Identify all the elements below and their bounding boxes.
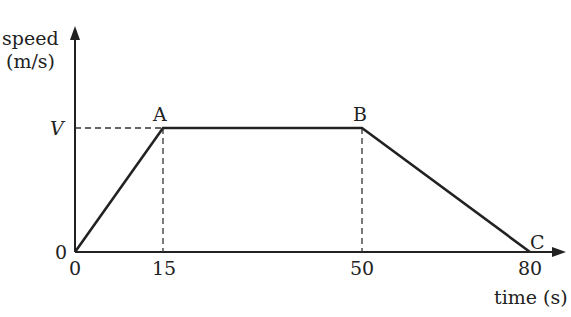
y-tick-v: V — [50, 117, 66, 139]
x-tick-15: 15 — [152, 257, 176, 279]
y-axis-arrow-icon — [70, 26, 80, 40]
x-tick-80: 80 — [518, 257, 542, 279]
speed-line — [75, 128, 530, 252]
x-tick-0: 0 — [69, 257, 81, 279]
point-label-c: C — [530, 231, 545, 253]
x-axis-label: time (s) — [494, 286, 568, 308]
speed-time-graph: speed (m/s) V 0 0 15 50 80 time (s) A B … — [0, 0, 571, 317]
point-label-a: A — [152, 103, 167, 125]
y-label-speed: speed — [2, 27, 59, 49]
x-tick-50: 50 — [350, 257, 374, 279]
x-axis-arrow-icon — [552, 247, 566, 257]
y-tick-0: 0 — [55, 241, 67, 263]
point-label-b: B — [353, 103, 367, 125]
y-label-units: (m/s) — [6, 50, 55, 72]
